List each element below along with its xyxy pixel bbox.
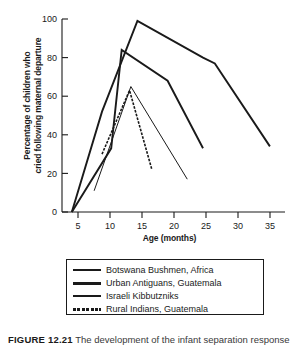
chart-plot-area: 100 80 60 40 20 0 5 10 15 <box>0 0 297 250</box>
figure: 100 80 60 40 20 0 5 10 15 <box>0 0 297 347</box>
y-axis-ticks <box>62 19 68 212</box>
x-axis-tick-labels: 5 10 15 20 25 30 35 <box>75 221 275 231</box>
x-tick-label: 5 <box>75 221 80 231</box>
y-tick-label: 60 <box>47 91 57 101</box>
x-tick-label: 10 <box>105 221 115 231</box>
y-axis-title-line2: cried following maternal departure <box>32 38 42 174</box>
y-axis-title-line1: Percentage of children who <box>22 51 32 159</box>
figure-caption: FIGURE 12.21 The development of the infa… <box>8 334 293 346</box>
y-tick-label: 0 <box>52 207 57 217</box>
figure-caption-number: FIGURE 12.21 <box>8 334 73 345</box>
y-axis-title: Percentage of children who cried followi… <box>22 21 43 191</box>
y-tick-label: 20 <box>47 169 57 179</box>
legend-item[interactable]: Botswana Bushmen, Africa <box>73 264 263 276</box>
y-tick-label: 100 <box>42 14 57 24</box>
x-tick-label: 35 <box>265 221 275 231</box>
x-tick-label: 20 <box>169 221 179 231</box>
x-axis-title: Age (months) <box>62 233 277 243</box>
x-tick-label: 30 <box>233 221 243 231</box>
chart-series-group <box>72 21 270 212</box>
legend-item-label: Botswana Bushmen, Africa <box>106 265 214 275</box>
y-tick-label: 80 <box>47 53 57 63</box>
y-axis-tick-labels: 100 80 60 40 20 0 <box>42 14 57 217</box>
x-axis-ticks <box>78 212 270 218</box>
chart-series-line <box>72 50 203 212</box>
chart-series-line <box>72 21 270 212</box>
legend-item-label: Israeli Kibbutzniks <box>106 291 179 301</box>
chart-axes <box>62 19 285 212</box>
x-tick-label: 15 <box>137 221 147 231</box>
figure-caption-text: The development of the infant separation… <box>75 334 289 345</box>
chart-series-line <box>102 90 152 169</box>
legend-item-label: Urban Antiguans, Guatemala <box>106 278 222 288</box>
legend-line-icon <box>73 279 101 288</box>
y-tick-label: 40 <box>47 130 57 140</box>
line-chart-svg: 100 80 60 40 20 0 5 10 15 <box>0 0 297 250</box>
chart-legend: Botswana Bushmen, Africa Urban Antiguans… <box>66 259 264 315</box>
legend-line-icon <box>73 266 101 275</box>
legend-item[interactable]: Urban Antiguans, Guatemala <box>73 277 263 289</box>
x-tick-label: 25 <box>201 221 211 231</box>
legend-item[interactable]: Israeli Kibbutzniks <box>73 290 263 302</box>
legend-line-icon <box>73 305 101 314</box>
legend-item[interactable]: Rural Indians, Guatemala <box>73 303 263 315</box>
legend-line-icon <box>73 292 101 301</box>
legend-item-label: Rural Indians, Guatemala <box>106 304 208 314</box>
